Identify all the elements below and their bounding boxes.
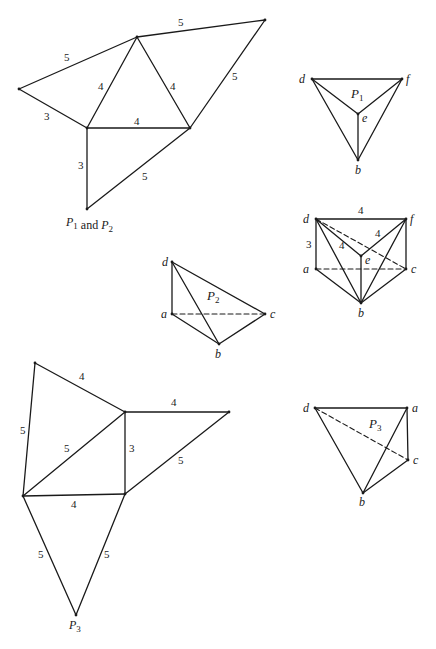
- edge-d-b: [172, 262, 219, 344]
- vertex-dot-c: [264, 313, 267, 316]
- vertex-label-a: a: [161, 307, 167, 321]
- vertex-dot-c: [405, 268, 408, 271]
- edge-a-c: [407, 408, 408, 460]
- polyhedra-nets-diagram: 555344435P1 and P2dfebP14344dfacebdacbP2…: [0, 0, 436, 649]
- vertex-dot-c: [407, 459, 410, 462]
- edge-B-R: [87, 128, 190, 209]
- vertex-dot-R: [189, 127, 192, 130]
- edge-L-M: [19, 89, 87, 128]
- edge-length-label: 3: [78, 159, 84, 171]
- edge-length-label: 4: [71, 498, 77, 510]
- tetrahedron-p1: dfebP1: [299, 72, 411, 177]
- figure-title: P2: [206, 288, 219, 305]
- edge-length-label: 5: [64, 442, 70, 454]
- vertex-dot-TR: [264, 19, 267, 22]
- edge-d-b: [315, 408, 363, 493]
- vertex-dot-b: [218, 343, 221, 346]
- edge-length-label: 4: [375, 227, 381, 239]
- vertex-dot-TR: [228, 411, 231, 414]
- figure-caption: P1 and P2: [65, 215, 113, 234]
- vertex-label-e: e: [365, 253, 371, 267]
- tetrahedron-p2: dacbP2: [161, 255, 276, 361]
- vertex-label-c: c: [270, 307, 276, 321]
- tetrahedron-p3: dacbP3: [303, 401, 419, 509]
- vertex-dot-b: [362, 492, 365, 495]
- vertex-dot-d: [314, 407, 317, 410]
- figure-caption: P3: [68, 618, 81, 634]
- edge-e-f: [358, 79, 402, 114]
- edge-b-c: [363, 460, 408, 493]
- figure-title: P3: [368, 416, 382, 433]
- edge-b-c: [219, 314, 265, 344]
- diagram-canvas: 555344435P1 and P2dfebP14344dfacebdacbP2…: [0, 0, 436, 649]
- edge-length-label: 4: [339, 239, 345, 251]
- edge-length-label: 4: [170, 80, 176, 92]
- edge-a-b: [316, 269, 361, 303]
- edge-length-label: 5: [232, 70, 238, 82]
- vertex-dot-e: [357, 113, 360, 116]
- vertex-label-c: c: [411, 262, 417, 276]
- edge-length-label: 4: [134, 115, 140, 127]
- vertex-dot-f: [401, 78, 404, 81]
- vertex-label-b: b: [355, 163, 361, 177]
- edge-M-T: [87, 37, 137, 128]
- net-p1-and-p2: 555344435P1 and P2: [18, 16, 267, 234]
- edge-length-label: 5: [20, 424, 26, 436]
- edge-length-label: 5: [64, 51, 70, 63]
- vertex-dot-b: [357, 159, 360, 162]
- vertex-dot-a: [171, 313, 174, 316]
- edge-length-label: 4: [171, 396, 177, 408]
- vertex-dot-a: [315, 268, 318, 271]
- triangular-prism-assembled: 4344dfaceb: [303, 204, 417, 320]
- vertex-label-b: b: [215, 347, 221, 361]
- edge-length-label: 4: [358, 204, 364, 216]
- vertex-dot-T: [136, 36, 139, 39]
- vertex-dot-BL: [22, 495, 25, 498]
- vertex-dot-AP: [75, 614, 78, 617]
- edge-T-TR: [137, 20, 265, 37]
- vertex-dot-d: [315, 218, 318, 221]
- vertex-label-b: b: [359, 495, 365, 509]
- vertex-dot-M: [86, 127, 89, 130]
- vertex-dot-b: [360, 302, 363, 305]
- edge-e-f: [361, 219, 406, 256]
- vertex-dot-MB: [124, 493, 127, 496]
- vertex-label-f: f: [410, 212, 415, 226]
- edge-length-label: 3: [129, 442, 135, 454]
- vertex-dot-MT: [124, 411, 127, 414]
- edge-c-b: [361, 269, 406, 303]
- edge-length-label: 4: [98, 80, 104, 92]
- edge-length-label: 5: [142, 170, 148, 182]
- edge-L-T: [19, 37, 137, 89]
- vertex-label-d: d: [303, 212, 310, 226]
- vertex-label-a: a: [412, 401, 418, 415]
- edge-BL-MB: [23, 494, 125, 496]
- vertex-label-c: c: [413, 453, 419, 467]
- edge-T-R: [137, 37, 190, 128]
- edge-length-label: 4: [79, 370, 85, 382]
- edge-MB-AP: [76, 494, 125, 615]
- vertex-dot-a: [406, 407, 409, 410]
- vertex-label-d: d: [299, 72, 306, 86]
- edge-length-label: 3: [306, 238, 312, 250]
- vertex-label-f: f: [406, 72, 411, 86]
- vertex-label-a: a: [303, 262, 309, 276]
- vertex-dot-d: [171, 261, 174, 264]
- vertex-label-d: d: [303, 401, 310, 415]
- edge-TR-R: [190, 20, 265, 128]
- vertex-label-b: b: [358, 306, 364, 320]
- net-p3: 445535455P3: [20, 362, 230, 634]
- edge-length-label: 5: [178, 454, 184, 466]
- edge-length-label: 5: [178, 16, 184, 28]
- edge-BL-AP: [23, 496, 76, 615]
- edge-BL-MT: [23, 412, 125, 496]
- edge-a-b: [172, 314, 219, 344]
- vertex-dot-B: [86, 208, 89, 211]
- edge-length-label: 5: [38, 548, 44, 560]
- edge-TR-MB: [125, 412, 229, 494]
- vertex-dot-L: [18, 88, 21, 91]
- figure-title: P1: [350, 86, 363, 103]
- vertex-label-d: d: [162, 255, 169, 269]
- vertex-dot-f: [405, 218, 408, 221]
- vertex-dot-e: [360, 255, 363, 258]
